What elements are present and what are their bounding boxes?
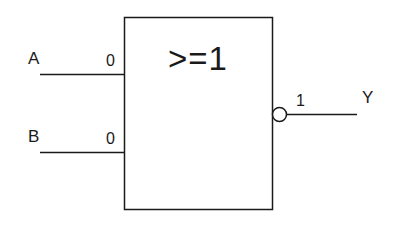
gate-symbol: >=1 [168,42,228,75]
input-a-label: A [28,50,39,67]
output-y-value: 1 [296,93,305,109]
input-a-value: 0 [106,53,115,69]
input-b-label: B [28,128,39,145]
inversion-bubble-icon [273,108,287,122]
input-b-value: 0 [106,131,115,147]
gate-diagram [0,0,399,230]
output-y-label: Y [362,89,373,106]
